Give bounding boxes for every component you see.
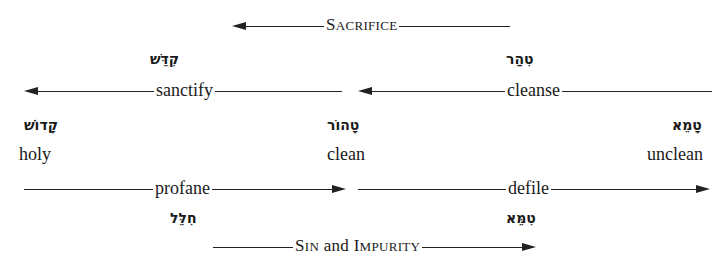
impurity-rest: MPURITY [360, 239, 421, 254]
sanctify-hebrew: קִדֵּשׁ [150, 51, 179, 67]
sacrifice-label-rest: ACRIFICE [336, 18, 398, 33]
cleanse-label: cleanse [505, 80, 562, 100]
defile-hebrew: טִמֵּא [506, 210, 536, 226]
holy-label: holy [19, 144, 51, 164]
holy-hebrew: קָדוֹשׁ [24, 117, 58, 133]
cleanse-hebrew: טִהַר [506, 51, 534, 67]
profane-hebrew: חִלֵּל [170, 210, 197, 226]
unclean-label: unclean [647, 144, 703, 164]
sacrifice-label: SACRIFICE [324, 15, 399, 36]
clean-label: clean [327, 144, 365, 164]
defile-label: defile [506, 178, 551, 198]
arrowhead-right-icon [522, 243, 536, 251]
sanctify-label: sanctify [154, 80, 215, 100]
sacrifice-label-initial: S [326, 15, 336, 34]
and-word: and [319, 236, 354, 255]
clean-hebrew: טָהוֹר [327, 117, 359, 133]
sin-initial: S [295, 236, 305, 255]
sin-impurity-label: SIN and IMPURITY [293, 236, 422, 257]
unclean-hebrew: טָמֵא [672, 117, 702, 133]
sin-rest: IN [305, 239, 319, 254]
arrowhead-right-icon [332, 185, 346, 193]
arrowhead-right-icon [696, 185, 710, 193]
profane-label: profane [153, 178, 212, 198]
